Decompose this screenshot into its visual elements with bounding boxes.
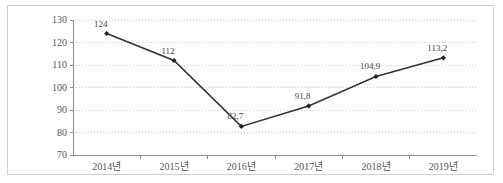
data-point-marker [441,55,446,60]
x-axis-tick-label: 2017년 [281,162,337,172]
x-axis-tick-label: 2019년 [415,162,471,172]
data-value-label: 91,8 [288,92,318,101]
data-point-marker [373,74,378,79]
data-point-marker [104,31,109,36]
x-axis-tick-label: 2014년 [79,162,135,172]
y-axis-tick-label: 70 [41,150,67,160]
data-point-marker [306,103,311,108]
y-axis-tick-label: 130 [41,15,67,25]
y-axis-tick-label: 110 [41,60,67,70]
y-axis-tick-label: 90 [41,105,67,115]
y-axis-tick-label: 120 [41,38,67,48]
y-axis-tick-label: 80 [41,128,67,138]
data-value-label: 104,9 [355,62,385,71]
data-value-label: 82,7 [220,112,250,121]
x-tick-marks [140,155,409,159]
x-axis-tick-label: 2016년 [213,162,269,172]
line-chart-plot [0,0,503,183]
data-value-label: 112 [153,47,183,56]
y-axis-tick-label: 100 [41,83,67,93]
data-value-label: 113,2 [422,44,452,53]
x-axis-tick-label: 2015년 [146,162,202,172]
data-value-label: 124 [86,20,116,29]
x-axis-tick-label: 2018년 [348,162,404,172]
